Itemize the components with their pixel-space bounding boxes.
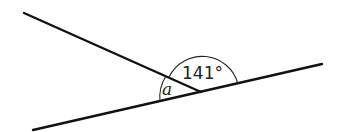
lower-line [33, 64, 322, 130]
angle-141-label: 141° [182, 63, 223, 83]
angle-diagram: 141° a [0, 0, 346, 132]
angle-a-label: a [162, 79, 172, 99]
upper-line [24, 13, 201, 92]
